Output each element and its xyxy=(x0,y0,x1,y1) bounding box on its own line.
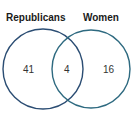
women-only-count: 16 xyxy=(103,64,114,75)
republicans-label: Republicans xyxy=(6,12,65,23)
women-label: Women xyxy=(83,12,119,23)
intersection-count: 4 xyxy=(64,64,70,75)
republicans-only-count: 41 xyxy=(23,64,34,75)
republicans-circle xyxy=(3,29,83,109)
